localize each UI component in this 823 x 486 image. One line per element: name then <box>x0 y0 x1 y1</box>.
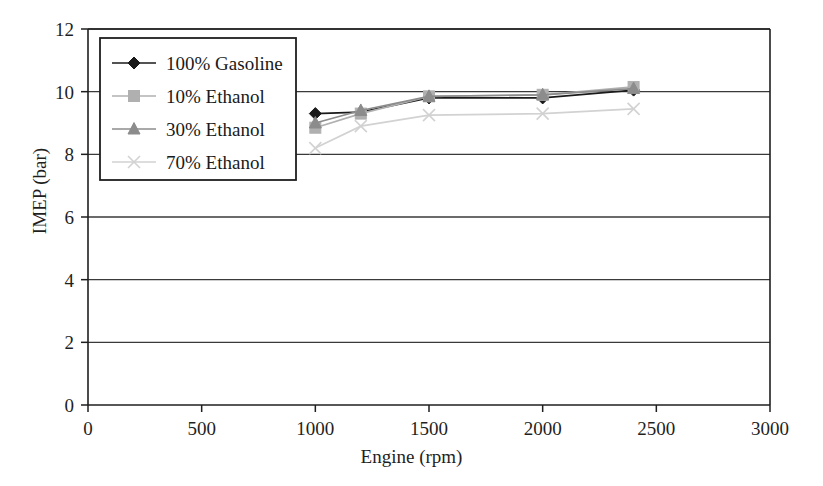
y-tick-label: 10 <box>55 82 74 103</box>
x-tick-label: 2500 <box>637 418 675 439</box>
x-tick-label: 2000 <box>524 418 562 439</box>
x-tick-label: 0 <box>83 418 93 439</box>
chart-figure: IMEP (bar) Engine (rpm) 100% Gasoline10%… <box>0 0 823 486</box>
x-tick-label: 1500 <box>410 418 448 439</box>
x-axis-title: Engine (rpm) <box>0 446 823 468</box>
x-tick-label: 1000 <box>296 418 334 439</box>
x-tick-label: 3000 <box>751 418 789 439</box>
series-30-ethanol <box>309 82 639 128</box>
data-point-x <box>309 142 321 154</box>
legend-label: 10% Ethanol <box>166 86 265 107</box>
chart-legend: 100% Gasoline10% Ethanol30% Ethanol70% E… <box>100 38 296 180</box>
plot-area: 100% Gasoline10% Ethanol30% Ethanol70% E… <box>0 0 823 486</box>
legend-label: 70% Ethanol <box>166 152 265 173</box>
y-tick-label: 8 <box>65 144 75 165</box>
legend-label: 30% Ethanol <box>166 119 265 140</box>
x-tick-label: 500 <box>187 418 216 439</box>
data-point-square <box>129 91 140 102</box>
y-tick-label: 4 <box>65 270 75 291</box>
y-tick-label: 2 <box>65 332 75 353</box>
legend-label: 100% Gasoline <box>166 53 283 74</box>
y-tick-label: 0 <box>65 395 75 416</box>
y-tick-label: 6 <box>65 207 75 228</box>
y-axis-title: IMEP (bar) <box>29 111 51 271</box>
y-tick-label: 12 <box>55 19 74 40</box>
